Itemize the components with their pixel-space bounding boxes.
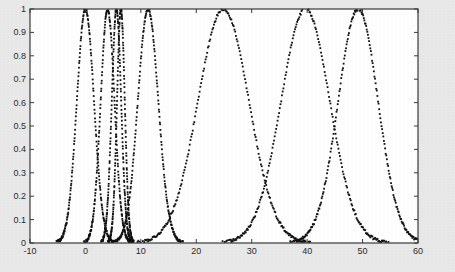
data-point xyxy=(273,208,275,210)
data-point xyxy=(125,209,127,211)
data-point xyxy=(97,156,99,158)
data-point xyxy=(160,135,162,137)
data-point xyxy=(340,83,342,85)
data-point xyxy=(137,98,139,100)
data-point xyxy=(126,159,128,161)
data-point xyxy=(370,50,372,52)
data-point xyxy=(258,153,260,155)
data-point xyxy=(196,107,198,109)
data-point xyxy=(123,172,125,174)
data-point xyxy=(105,224,107,226)
data-point xyxy=(75,108,77,110)
data-point xyxy=(114,181,116,183)
data-point xyxy=(112,79,114,81)
data-point xyxy=(110,36,112,38)
data-point xyxy=(152,39,154,41)
data-point xyxy=(369,44,371,46)
data-point xyxy=(71,170,73,172)
data-point xyxy=(115,136,117,138)
data-point xyxy=(72,156,74,158)
data-point xyxy=(98,130,100,132)
data-point xyxy=(118,42,120,44)
data-point xyxy=(122,50,124,52)
data-point xyxy=(136,111,138,113)
y-tick-label: 0.1 xyxy=(0,215,26,224)
data-point xyxy=(116,11,118,13)
data-point xyxy=(187,156,189,158)
data-point xyxy=(114,104,116,106)
data-point xyxy=(332,121,334,123)
data-point xyxy=(387,163,389,165)
data-point xyxy=(193,123,195,125)
data-point xyxy=(105,18,107,20)
data-point xyxy=(125,132,127,134)
data-point xyxy=(345,47,347,49)
data-point xyxy=(377,238,379,240)
data-point xyxy=(160,134,162,136)
data-point xyxy=(153,48,155,50)
data-point xyxy=(126,215,128,217)
data-point xyxy=(125,207,127,209)
data-point xyxy=(135,130,137,132)
data-point xyxy=(352,16,354,18)
data-point xyxy=(96,172,98,174)
data-point xyxy=(276,124,278,126)
data-point xyxy=(250,111,252,113)
data-point xyxy=(107,202,109,204)
data-point xyxy=(100,199,102,201)
data-point xyxy=(102,54,104,56)
data-point xyxy=(315,216,317,218)
data-point xyxy=(122,137,124,139)
data-point xyxy=(98,169,100,171)
data-point xyxy=(334,120,336,122)
data-point xyxy=(67,212,69,214)
data-point xyxy=(80,40,82,42)
data-point xyxy=(79,56,81,58)
data-point xyxy=(368,37,370,39)
data-point xyxy=(300,14,302,16)
data-point xyxy=(93,210,95,212)
data-point xyxy=(182,175,184,177)
data-point xyxy=(347,192,349,194)
data-point xyxy=(95,126,97,128)
data-point xyxy=(327,91,329,93)
data-point xyxy=(333,133,335,135)
data-point xyxy=(124,194,126,196)
data-point xyxy=(75,120,77,122)
data-point xyxy=(114,26,116,28)
data-point xyxy=(124,193,126,195)
data-point xyxy=(101,66,103,68)
data-point xyxy=(125,145,127,147)
data-point xyxy=(98,172,100,174)
data-point xyxy=(107,192,109,194)
data-point xyxy=(368,40,370,42)
data-point xyxy=(168,213,170,215)
data-point xyxy=(394,198,396,200)
data-point xyxy=(128,215,130,217)
data-point xyxy=(283,83,285,85)
data-point xyxy=(293,34,295,36)
data-point xyxy=(241,62,243,64)
data-point xyxy=(102,50,104,52)
data-point xyxy=(124,189,126,191)
data-point xyxy=(246,87,248,89)
data-point xyxy=(213,24,215,26)
data-point xyxy=(154,50,156,52)
data-point xyxy=(347,38,349,40)
data-point xyxy=(141,46,143,48)
data-point xyxy=(78,62,80,64)
data-point xyxy=(151,22,153,24)
data-point xyxy=(101,209,103,211)
data-point xyxy=(118,52,120,54)
data-point xyxy=(162,163,164,165)
data-point xyxy=(377,101,379,103)
data-point xyxy=(152,35,154,37)
data-point xyxy=(95,180,97,182)
data-point xyxy=(206,52,208,54)
data-point xyxy=(155,67,157,69)
data-point xyxy=(359,222,361,224)
data-point xyxy=(335,133,337,135)
data-point xyxy=(109,147,111,149)
data-point xyxy=(187,153,189,155)
data-point xyxy=(121,124,123,126)
